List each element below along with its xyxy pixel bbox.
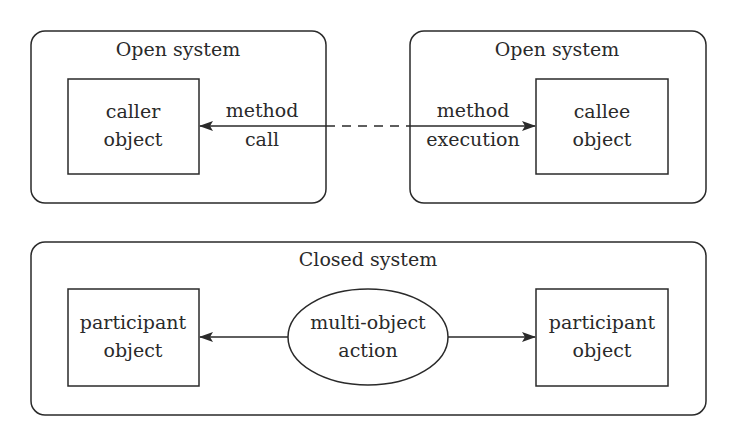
participant-left-line2: object	[103, 339, 162, 361]
method-execution-label-line2: execution	[426, 128, 519, 150]
closed-system: Closed system participant object multi-o…	[31, 242, 706, 415]
caller-object-box	[68, 79, 199, 174]
participant-right-line1: participant	[549, 311, 656, 333]
open-system-right-title: Open system	[495, 38, 619, 60]
method-call-edge: method call method execution	[200, 99, 535, 150]
diagram-canvas: Open system caller object Open system ca…	[0, 0, 731, 432]
callee-object-line2: object	[572, 128, 631, 150]
participant-object-right-box	[536, 289, 668, 386]
participant-object-left-box	[68, 289, 199, 386]
callee-object-line1: callee	[574, 100, 631, 122]
method-call-label-line1: method	[226, 99, 299, 121]
action-line1: multi-object	[310, 311, 426, 333]
open-system-left-title: Open system	[116, 38, 240, 60]
callee-object-box	[536, 79, 668, 174]
caller-object-line2: object	[103, 128, 162, 150]
caller-object-line1: caller	[106, 100, 161, 122]
participant-left-line1: participant	[80, 311, 187, 333]
closed-system-title: Closed system	[299, 248, 437, 270]
method-execution-label-line1: method	[437, 99, 510, 121]
action-line2: action	[338, 339, 397, 361]
participant-right-line2: object	[572, 339, 631, 361]
method-call-label-line2: call	[245, 128, 279, 150]
multi-object-action-ellipse	[288, 289, 448, 385]
